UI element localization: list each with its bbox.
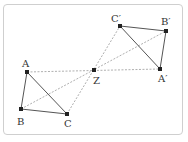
label-c-prime: C′ (111, 13, 122, 24)
point-c (65, 112, 69, 116)
point-c-prime (118, 24, 122, 28)
label-b: B (17, 116, 24, 127)
label-b-prime: B′ (161, 16, 171, 27)
label-z: Z (93, 75, 100, 86)
point-b-prime (164, 29, 168, 33)
triangle-image (120, 26, 166, 69)
label-a-prime: A′ (157, 73, 168, 84)
point-z (92, 68, 96, 72)
triangle-original (21, 72, 67, 114)
label-a: A (21, 58, 30, 69)
label-c: C (64, 118, 72, 129)
reflection-diagram: ABCA′B′C′Z (0, 0, 188, 142)
point-a (25, 70, 29, 74)
points (19, 24, 168, 116)
point-b (19, 107, 23, 111)
point-a-prime (158, 67, 162, 71)
